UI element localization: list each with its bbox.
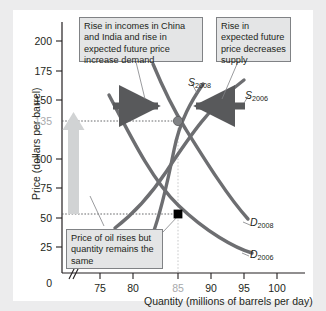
curve-label-d-2006-letter: D [250, 248, 258, 260]
y-tick-75: 75 [22, 183, 52, 194]
figure-root: Price (dollars per barrel) 200 175 150 1… [0, 0, 326, 311]
y-tick-200: 200 [22, 36, 52, 47]
y-tick-175: 175 [22, 66, 52, 77]
equilibrium-2006-marker [174, 210, 183, 219]
curve-label-s-2008-year: 2008 [195, 81, 211, 90]
curve-label-s-2006: S2006 [245, 89, 268, 101]
curve-label-d-2006-year: 2006 [258, 253, 274, 262]
curve-label-s-2006-letter: S [245, 89, 252, 101]
y-tick-150: 150 [22, 95, 52, 106]
y-tick-0: 0 [22, 278, 52, 289]
curve-label-d-2008-letter: D [250, 216, 258, 228]
x-tick-80: 80 [118, 283, 148, 294]
x-tick-85: 85 [163, 283, 193, 294]
y-tick-135: 135 [22, 116, 52, 127]
y-tick-25: 25 [22, 242, 52, 253]
callout-leader-lines [90, 57, 250, 256]
supply-shift-note: Rise in expected future price decreases … [216, 17, 291, 62]
price-increase-arrow [63, 112, 85, 214]
curve-label-d-2008-year: 2008 [258, 221, 274, 230]
equilibrium-2008-marker [173, 116, 182, 125]
curve-label-s-2008: S2008 [188, 76, 211, 88]
curve-label-s-2008-letter: S [188, 76, 195, 88]
x-axis-ticks [100, 273, 277, 279]
x-tick-95: 95 [229, 283, 259, 294]
x-tick-90: 90 [196, 283, 226, 294]
y-tick-100: 100 [22, 154, 52, 165]
y-tick-50: 50 [22, 213, 52, 224]
curve-label-s-2006-year: 2006 [252, 94, 268, 103]
y-axis-ticks [56, 41, 62, 247]
x-axis-title: Quantity (millions of barrels per day) [144, 296, 313, 307]
demand-shift-note: Rise in incomes in China and India and r… [79, 17, 203, 62]
x-tick-100: 100 [262, 283, 292, 294]
x-tick-75: 75 [85, 283, 115, 294]
curve-label-d-2008: D2008 [250, 216, 274, 228]
curve-label-d-2006: D2006 [250, 248, 274, 260]
price-rise-note: Price of oil rises but quantity remains … [66, 229, 163, 269]
